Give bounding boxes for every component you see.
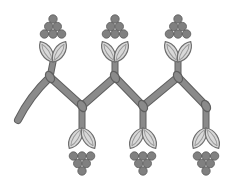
grape-icon (139, 167, 147, 175)
grape-icon (130, 152, 138, 160)
grape-icon (49, 15, 57, 23)
grape-cluster-bottom-3 (189, 125, 223, 175)
grape-icon (57, 30, 65, 38)
grape-icon (202, 167, 210, 175)
grape-icon (49, 30, 57, 38)
grape-cluster-bottom-2 (126, 125, 160, 175)
grape-icon (45, 22, 53, 30)
grape-icon (111, 30, 119, 38)
grape-icon (78, 167, 86, 175)
grape-cluster-top-3 (161, 15, 195, 65)
grape-icon (135, 159, 143, 167)
grape-icon (86, 152, 94, 160)
grape-cluster-top-2 (98, 15, 132, 65)
grape-icon (206, 159, 214, 167)
grape-icon (210, 152, 218, 160)
grape-icon (139, 152, 147, 160)
grape-icon (143, 159, 151, 167)
grape-cluster-bottom-1 (65, 125, 99, 175)
grape-icon (107, 22, 115, 30)
grape-icon (174, 15, 182, 23)
vine (18, 70, 212, 120)
grape-icon (170, 22, 178, 30)
grape-icon (119, 30, 127, 38)
grape-icon (182, 30, 190, 38)
grape-icon (202, 152, 210, 160)
grape-icon (78, 152, 86, 160)
grape-icon (69, 152, 77, 160)
grapevine-artwork (0, 0, 239, 187)
grape-icon (111, 15, 119, 23)
vine-branch (18, 77, 206, 120)
grapevine-illustration: Grapevine ornamental border (0, 0, 239, 187)
grape-icon (193, 152, 201, 160)
grape-icon (53, 22, 61, 30)
grape-icon (174, 30, 182, 38)
grape-icon (178, 22, 186, 30)
grape-icon (147, 152, 155, 160)
grape-icon (115, 22, 123, 30)
grape-cluster-top-1 (36, 15, 70, 65)
grape-icon (40, 30, 48, 38)
grape-icon (198, 159, 206, 167)
grape-icon (82, 159, 90, 167)
grape-icon (102, 30, 110, 38)
grape-icon (165, 30, 173, 38)
grape-icon (74, 159, 82, 167)
